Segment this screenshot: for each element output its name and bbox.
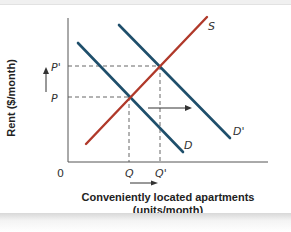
quantity-label: Q bbox=[125, 167, 134, 180]
demand-shifted-label: D' bbox=[233, 125, 245, 138]
origin-label: 0 bbox=[57, 167, 64, 180]
supply-curve bbox=[86, 17, 207, 144]
price-increase-arrow bbox=[43, 67, 49, 92]
price-label: P bbox=[51, 92, 58, 105]
y-axis-title-text: Rent ($/month) bbox=[5, 59, 17, 137]
price-label: P' bbox=[51, 61, 61, 74]
x-axis-title-line1: Conveniently located apartments bbox=[68, 191, 268, 204]
supply-label: S bbox=[208, 20, 215, 33]
demand-label: D bbox=[184, 139, 192, 152]
quantity-new-label: Q' bbox=[155, 167, 167, 180]
demand-curve-d-prime bbox=[119, 25, 230, 138]
demand-shift-arrow bbox=[148, 105, 192, 111]
y-axis-title: Rent ($/month) bbox=[3, 38, 19, 158]
quantity-increase-arrow bbox=[130, 181, 158, 186]
bottom-shadow bbox=[0, 213, 291, 232]
